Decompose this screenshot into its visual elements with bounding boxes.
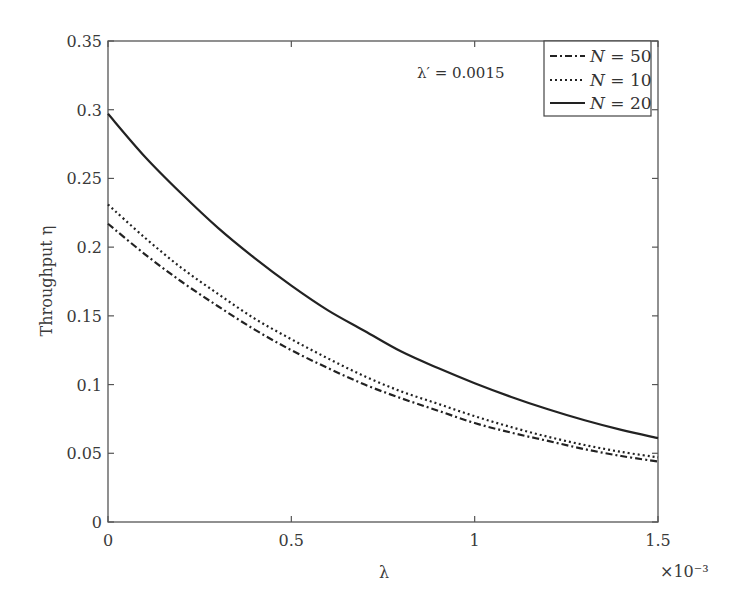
throughput-chart: 00.050.10.150.20.250.30.35 00.511.5 λ′ =… [0,0,729,609]
x-tick-label: 1.5 [645,531,670,550]
x-axis-multiplier: ×10⁻³ [660,562,709,581]
y-tick-label: 0.1 [77,376,102,395]
svg-text:N = 20: N = 20 [589,93,652,113]
y-tick-label: 0.15 [66,307,102,326]
lambda-prime-annotation: λ′ = 0.0015 [417,64,505,82]
y-tick-label: 0.25 [66,169,102,188]
legend: N = 50 N = 10 N = 20 [544,41,652,116]
y-tick-label: 0.35 [66,32,102,51]
svg-text:N = 10: N = 10 [589,70,652,90]
x-tick-label: 1 [470,531,480,550]
y-tick-label: 0.2 [77,238,102,257]
svg-text:N = 50: N = 50 [589,46,652,66]
x-axis-label: λ [379,563,389,582]
y-axis-label: Throughput η [37,226,56,337]
x-tick-label: 0.5 [279,531,304,550]
y-tick-label: 0.3 [77,101,102,120]
y-tick-label: 0.05 [66,444,102,463]
x-tick-label: 0 [103,531,113,550]
y-tick-label: 0 [92,513,102,532]
